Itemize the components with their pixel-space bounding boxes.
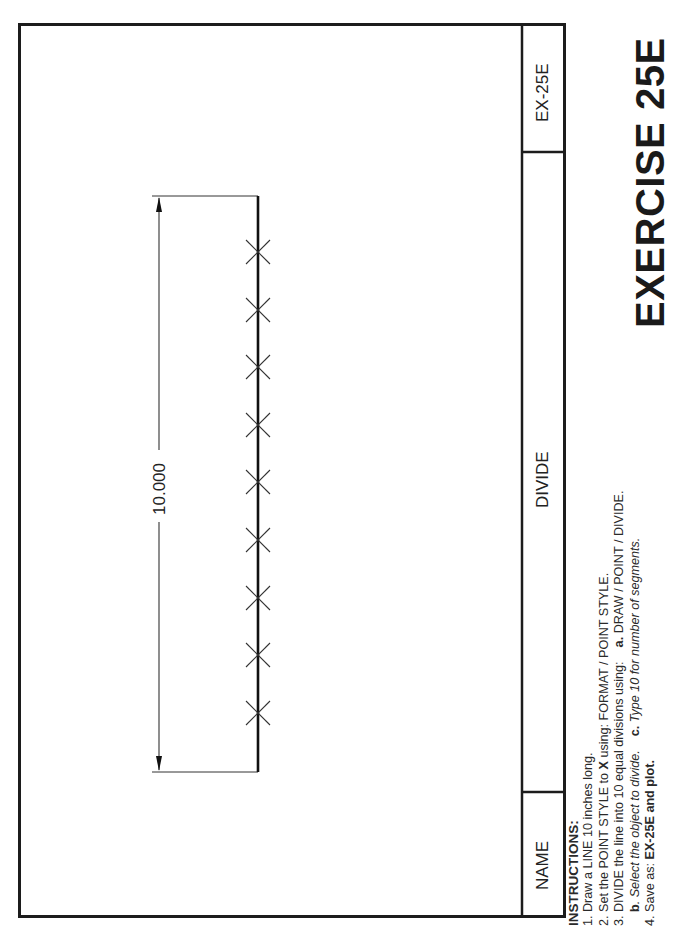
instruction-step-2: 2.Set the POINT STYLE to X using: FORMAT… — [597, 406, 612, 926]
name-field: NAME — [533, 841, 553, 890]
arrowhead-bottom-icon — [156, 756, 162, 771]
instruction-step-4: 4.Save as: EX-25E and plot. — [643, 406, 658, 926]
instruction-step-3: 3.DIVIDE the line into 10 equal division… — [612, 406, 627, 926]
drawing-number: EX-25E — [533, 63, 553, 122]
exercise-title: EXERCISE 25E — [628, 37, 673, 328]
instructions-heading: INSTRUCTIONS: — [566, 406, 581, 926]
drawing-title: DIVIDE — [533, 451, 553, 508]
arrowhead-top-icon — [156, 197, 162, 212]
instruction-step-3-sub: b. Select the object to divide. c. Type … — [628, 406, 643, 926]
instruction-step-1: 1.Draw a LINE 10 inches long. — [581, 406, 596, 926]
instructions: INSTRUCTIONS: 1.Draw a LINE 10 inches lo… — [566, 406, 658, 926]
dimension-value: 10.000 — [150, 461, 170, 517]
